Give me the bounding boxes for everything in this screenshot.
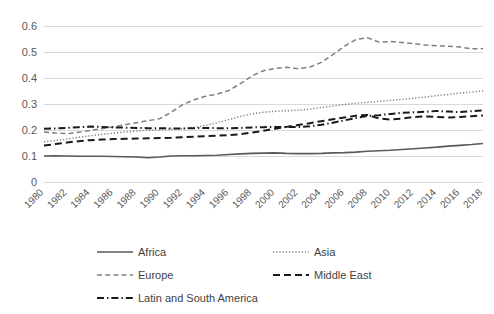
y-tick-label: 0.3 bbox=[22, 98, 37, 110]
y-tick-label: 0.1 bbox=[22, 150, 37, 162]
legend-label-latin-and-south-america: Latin and South America bbox=[138, 292, 259, 304]
y-tick-label: 0.5 bbox=[22, 46, 37, 58]
legend-label-africa: Africa bbox=[138, 246, 167, 258]
legend-label-asia: Asia bbox=[314, 246, 336, 258]
chart-background bbox=[0, 0, 494, 314]
chart-canvas: 00.10.20.30.40.50.6 19801982198419861988… bbox=[0, 0, 494, 314]
y-tick-label: 0 bbox=[31, 176, 37, 188]
y-tick-label: 0.2 bbox=[22, 124, 37, 136]
legend-label-europe: Europe bbox=[138, 269, 173, 281]
line-chart: 00.10.20.30.40.50.6 19801982198419861988… bbox=[0, 0, 494, 314]
y-tick-label: 0.4 bbox=[22, 72, 37, 84]
y-tick-label: 0.6 bbox=[22, 20, 37, 32]
legend-label-middle-east: Middle East bbox=[314, 269, 371, 281]
